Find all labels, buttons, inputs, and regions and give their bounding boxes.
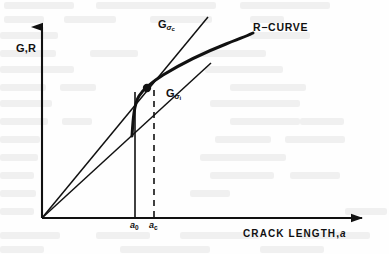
r-curve-label: R−CURVE (253, 21, 308, 33)
x-tick-ac-sub: c (154, 224, 158, 231)
x-tick-a0-sub: 0 (135, 224, 139, 231)
g-sigma-c-line (42, 17, 208, 218)
r-curve-plot (0, 0, 389, 254)
g-sigma-c-label-sub2: c (172, 26, 175, 32)
x-axis-label-text: CRACK LENGTH, (243, 228, 340, 239)
g-sigma-i-label: Gσi (166, 87, 181, 101)
g-sigma-i-label-base: G (166, 87, 175, 99)
x-tick-label-ac: ac (149, 220, 158, 231)
x-axis-label-symbol: a (340, 228, 346, 239)
tangency-point-marker (143, 84, 151, 92)
g-sigma-i-line (42, 63, 211, 218)
g-sigma-c-label: Gσc (158, 18, 175, 32)
g-sigma-c-label-base: G (158, 18, 167, 30)
figure-canvas: G,R CRACK LENGTH,a R−CURVE Gσc Gσi a0 ac (0, 0, 389, 254)
y-axis-label: G,R (16, 42, 36, 54)
x-tick-label-a0: a0 (130, 220, 139, 231)
x-axis-label: CRACK LENGTH,a (243, 228, 346, 239)
g-sigma-i-label-sub2: i (180, 95, 182, 101)
r-curve (132, 33, 253, 136)
